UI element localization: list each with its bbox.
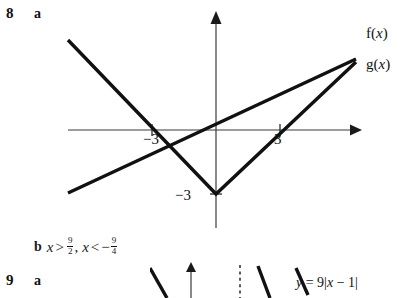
graph-question-9a-partial xyxy=(150,262,410,298)
curve-label-gx: g(x) xyxy=(366,57,390,72)
x-axis-tick-label-positive-3: 3 xyxy=(274,132,282,147)
gx-suffix: ) xyxy=(385,56,390,72)
curve-gx xyxy=(68,59,356,193)
fraction-2-denominator: 4 xyxy=(111,246,118,256)
answer-8b-greater-than: > xyxy=(55,239,63,256)
equation-9a-tail: − 1| xyxy=(333,275,358,290)
answer-8b-fraction-1: 9 2 xyxy=(67,236,74,256)
answer-8b-fraction-2: 9 4 xyxy=(111,236,118,256)
fraction-1-denominator: 2 xyxy=(67,246,74,256)
fraction-1-numerator: 9 xyxy=(67,236,74,245)
answer-8b-less-than: < xyxy=(91,239,99,256)
segment-right-descending xyxy=(258,266,270,298)
curve-label-fx: f(x) xyxy=(366,26,388,41)
fx-variable: x xyxy=(376,25,383,41)
y-axis-arrowhead xyxy=(211,11,222,24)
answer-question-8b: b x > 9 2 , x < − 9 4 xyxy=(34,232,118,262)
question-8-part-b-label: b xyxy=(34,239,42,255)
equation-label-9a: y = 9|x − 1| xyxy=(296,275,358,291)
equation-9a-body: = 9| xyxy=(302,275,327,290)
fx-suffix: ) xyxy=(383,25,388,41)
fx-prefix: f( xyxy=(366,25,376,41)
y-axis-arrowhead-9a xyxy=(186,262,196,272)
question-9-part-a-label: a xyxy=(34,274,41,288)
answer-8b-x2: x xyxy=(82,239,89,256)
graph-question-8a xyxy=(0,0,410,232)
x-axis-arrowhead xyxy=(350,125,362,136)
answer-8b-minus-sign: − xyxy=(101,239,109,256)
graph-9a-canvas xyxy=(150,262,410,298)
question-number-9: 9 xyxy=(6,273,14,288)
fraction-2-numerator: 9 xyxy=(111,236,118,245)
gx-prefix: g( xyxy=(366,56,379,72)
segment-left-descending xyxy=(150,268,167,298)
answer-8b-comma: , xyxy=(74,239,78,256)
answer-key-page: 8 a −3 3 −3 f(x) g(x) b x > 9 xyxy=(0,0,410,298)
x-axis-tick-label-negative-3: −3 xyxy=(143,132,159,147)
graph-8a-canvas xyxy=(0,0,410,232)
answer-8b-x1: x xyxy=(47,239,54,256)
curve-fx xyxy=(68,40,356,194)
y-axis-tick-label-negative-3: −3 xyxy=(175,188,191,203)
